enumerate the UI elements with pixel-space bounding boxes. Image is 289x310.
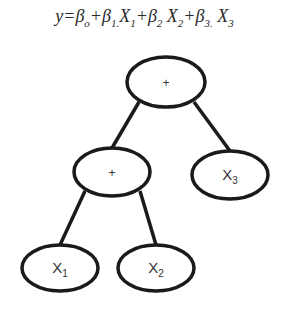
node-label: + [162,76,169,90]
node-x1: X1 [22,245,98,291]
node-x3: X3 [192,151,268,199]
node-label: + [108,166,115,180]
expression-tree: ++X3X1X2 [0,0,289,310]
node-subscript: 2 [158,268,164,279]
edge-plus-x1 [60,191,85,245]
node-x2: X2 [118,245,194,291]
edge-plus-x2 [140,191,156,245]
node-subscript: 3 [232,175,238,186]
edge-root-x3 [194,102,230,151]
node-plus: + [74,148,150,196]
node-subscript: 1 [62,268,68,279]
node-root: + [127,57,205,107]
edge-root-plus [112,102,139,148]
